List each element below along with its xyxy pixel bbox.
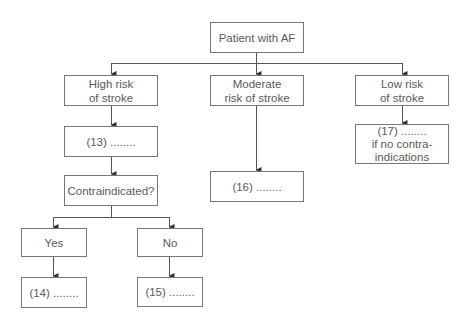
label-line: risk of stroke	[224, 92, 289, 104]
node-16: (16) ........	[210, 171, 304, 202]
node-17: (17) ........if no contra-indications	[355, 124, 449, 164]
node-label: No	[163, 236, 178, 250]
node-contraindicated: Contraindicated?	[64, 175, 158, 206]
label-line: Moderate	[233, 78, 282, 90]
node-15: (15) ........	[137, 277, 203, 307]
node-label: (13) ........	[86, 135, 135, 149]
node-label: (15) ........	[145, 285, 194, 299]
node-label: (17) ........if no contra-indications	[372, 125, 433, 164]
node-moderate-risk: Moderaterisk of stroke	[210, 75, 304, 106]
node-label: (14) ........	[29, 286, 78, 300]
label-line: High risk	[89, 78, 134, 90]
node-high-risk: High riskof stroke	[64, 75, 158, 106]
node-low-risk: Low riskof stroke	[355, 75, 449, 106]
node-no: No	[137, 228, 203, 257]
label-line: of stroke	[380, 92, 424, 104]
node-label: Yes	[45, 236, 64, 250]
node-label: High riskof stroke	[89, 77, 134, 105]
node-yes: Yes	[21, 228, 87, 257]
label-line: indications	[375, 151, 429, 163]
node-label: Low riskof stroke	[380, 77, 424, 105]
node-label: Contraindicated?	[68, 184, 155, 198]
label-line: of stroke	[89, 92, 133, 104]
label-line: if no contra-	[372, 138, 433, 150]
label-line: Low risk	[381, 78, 423, 90]
node-label: Moderaterisk of stroke	[224, 77, 289, 105]
node-patient-with-af: Patient with AF	[210, 22, 304, 53]
node-13: (13) ........	[64, 126, 158, 157]
label-line: (17) ........	[377, 125, 426, 137]
node-14: (14) ........	[21, 277, 87, 308]
node-label: Patient with AF	[219, 31, 296, 45]
node-label: (16) ........	[232, 180, 281, 194]
